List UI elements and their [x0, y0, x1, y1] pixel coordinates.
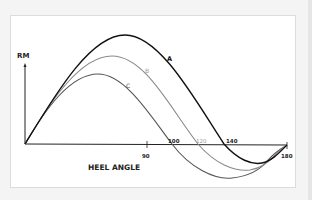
tick-label-180: 180	[281, 153, 293, 159]
crossing-label-120: 120	[196, 138, 207, 144]
curve-label-b: B	[145, 67, 149, 74]
crossing-label-100: 100	[168, 138, 180, 144]
curve-c	[25, 74, 287, 178]
crossing-label-140: 140	[226, 138, 238, 144]
curve-label-c: C	[126, 82, 130, 89]
x-axis	[25, 144, 287, 145]
righting-moment-chart: RM HEEL ANGLE 90 180 100 120 140 A B C	[0, 0, 312, 200]
y-axis-label: RM	[17, 52, 29, 60]
curve-b	[25, 56, 287, 170]
y-axis-arrow-icon	[24, 63, 27, 67]
tick-label-90: 90	[142, 153, 150, 159]
curve-label-a: A	[167, 55, 172, 63]
x-axis-label: HEEL ANGLE	[88, 163, 140, 172]
